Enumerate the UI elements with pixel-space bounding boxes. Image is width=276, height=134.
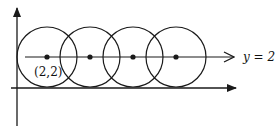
line-label: y = 2	[242, 50, 275, 64]
center-point-4	[173, 54, 178, 59]
center-point-3	[130, 54, 135, 59]
diagram-canvas: (2,2) y = 2	[0, 0, 276, 134]
center-point-1	[44, 54, 49, 59]
point-label: (2,2)	[34, 65, 62, 79]
center-point-2	[87, 54, 92, 59]
